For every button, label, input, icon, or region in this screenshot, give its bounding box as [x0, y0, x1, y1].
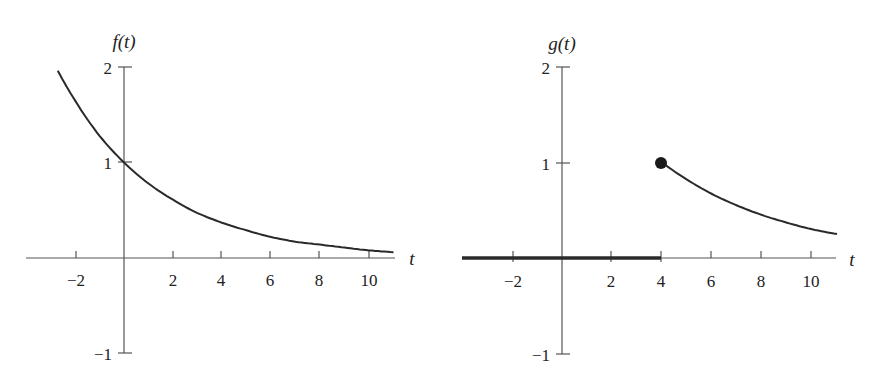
filled-dot-marker	[655, 157, 667, 169]
y-tick-label: −1	[94, 345, 112, 364]
x-tick-label: 4	[657, 272, 666, 291]
x-ticks	[76, 251, 369, 258]
y-ticks	[118, 67, 132, 353]
x-tick-label: 4	[217, 271, 226, 290]
x-tick-label: 6	[266, 271, 275, 290]
x-tick-label: −2	[67, 271, 85, 290]
x-tick-label: 8	[757, 272, 766, 291]
x-tick-label: 8	[315, 271, 324, 290]
x-axis-title: t	[409, 248, 415, 269]
plot-f: −2 2 4 6 8 10 2 1 −1 f(t) t	[26, 31, 415, 364]
x-axis-title: t	[849, 249, 855, 270]
g-curve	[662, 163, 837, 235]
x-tick-label: 2	[607, 272, 616, 291]
y-tick-label: 2	[104, 59, 113, 78]
y-axis-title: f(t)	[112, 31, 135, 53]
x-tick-label: 10	[361, 271, 378, 290]
figure: −2 2 4 6 8 10 2 1 −1 f(t) t	[0, 0, 878, 386]
y-ticks	[556, 67, 570, 354]
x-tick-label: 2	[169, 271, 178, 290]
y-tick-label: −1	[532, 346, 550, 365]
x-tick-label: −2	[504, 272, 522, 291]
y-tick-label: 1	[104, 154, 113, 173]
x-tick-label: 6	[707, 272, 716, 291]
y-tick-label: 1	[542, 155, 551, 174]
plot-g: −2 2 4 6 8 10 2 1 −1 g(t) t	[462, 33, 855, 365]
y-axis-title: g(t)	[548, 33, 575, 55]
y-tick-label: 2	[542, 59, 551, 78]
x-tick-label: 10	[803, 272, 820, 291]
